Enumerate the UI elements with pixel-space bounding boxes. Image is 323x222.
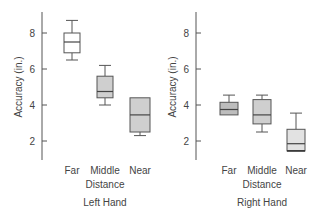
y-tick-label: 8 (29, 28, 35, 39)
category-label: Far (65, 165, 81, 176)
category-label: Distance (86, 179, 125, 190)
y-axis-title: Accuracy (in.) (167, 56, 178, 117)
y-axis-title: Accuracy (in.) (13, 56, 24, 117)
y-tick-label: 2 (29, 136, 35, 147)
category-label: Near (285, 165, 307, 176)
box-near (130, 98, 150, 136)
category-label: Middle (90, 165, 120, 176)
y-tick-label: 6 (183, 64, 189, 75)
y-tick-label: 2 (183, 136, 189, 147)
y-tick-label: 4 (183, 100, 189, 111)
box-middle-distance (97, 65, 113, 105)
category-label: Far (222, 165, 238, 176)
category-label: Distance (243, 179, 282, 190)
y-tick-label: 4 (29, 100, 35, 111)
box-far (64, 20, 80, 60)
box-near (287, 113, 305, 151)
boxplot-figure: 2468Accuracy (in.)FarMiddleDistanceNearL… (0, 0, 323, 222)
left-hand-panel: 2468Accuracy (in.)FarMiddleDistanceNearL… (13, 12, 152, 208)
y-tick-label: 6 (29, 64, 35, 75)
box-middle-distance (253, 95, 271, 132)
category-label: Near (129, 165, 151, 176)
box-far (220, 95, 238, 115)
panel-title: Left Hand (83, 197, 126, 208)
y-tick-label: 8 (183, 28, 189, 39)
category-label: Middle (247, 165, 277, 176)
right-hand-panel: 2468Accuracy (in.)FarMiddleDistanceNearR… (167, 12, 308, 208)
panel-title: Right Hand (237, 197, 287, 208)
